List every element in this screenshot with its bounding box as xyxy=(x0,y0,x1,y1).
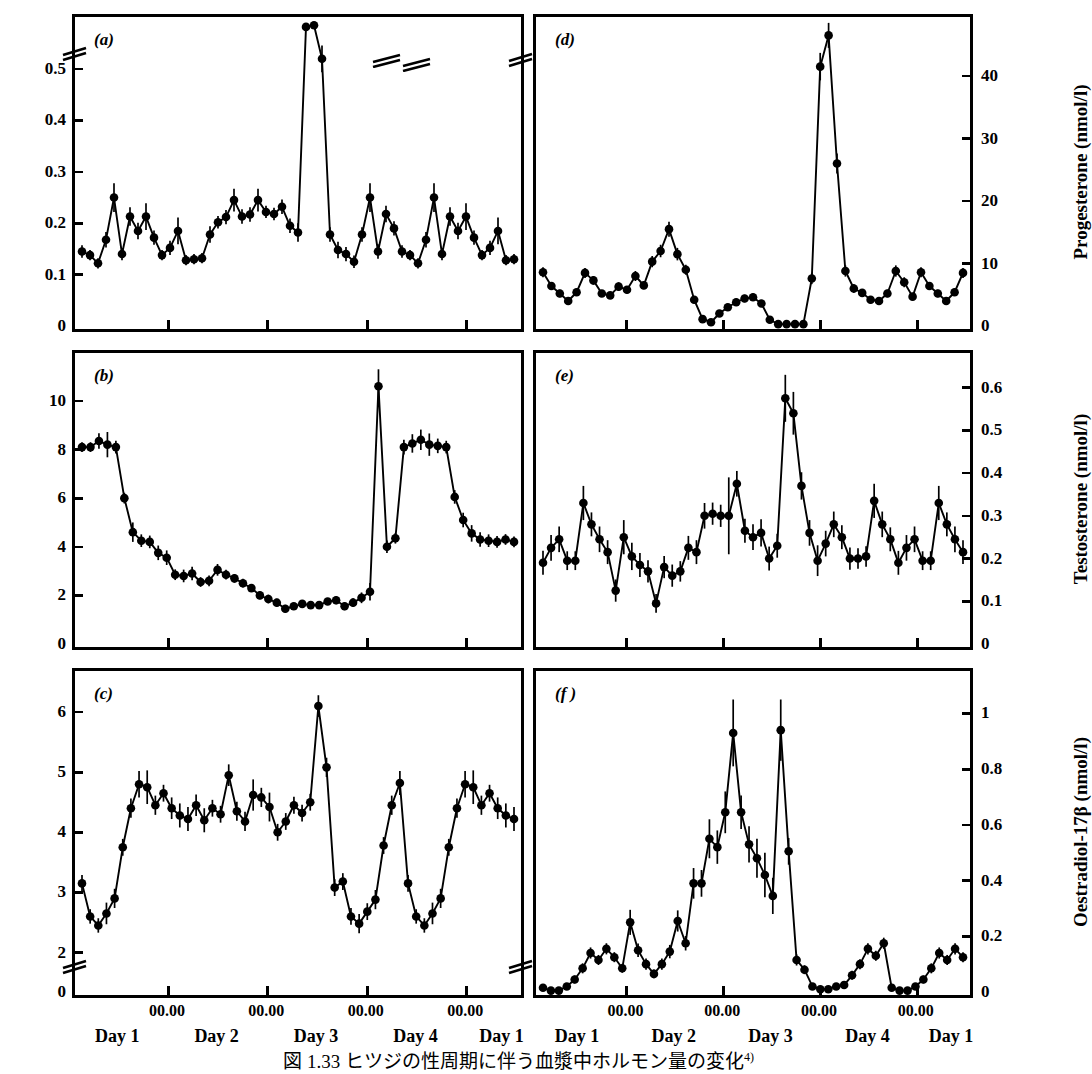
panel-f-axis-break xyxy=(508,955,534,975)
panel-b-letter: (b) xyxy=(94,366,114,386)
panel-a-data-points xyxy=(78,21,519,268)
panel-b-y-tick-label: 8 xyxy=(6,440,66,460)
panel-c-line xyxy=(82,706,514,925)
panel-f-tick-mark xyxy=(962,768,973,771)
panel-a-surge-break xyxy=(402,54,432,72)
panel-c-y-tick-label: 0 xyxy=(6,982,66,1002)
panel-e-y-tick-label: 0.4 xyxy=(981,463,1041,483)
panel-c-x-tick-mark xyxy=(465,986,468,998)
panel-f-y-tick-label: 1 xyxy=(981,703,1041,723)
panel-d-plot xyxy=(533,14,973,332)
panel-f-tick-mark xyxy=(962,879,973,882)
panel-e-line xyxy=(543,398,963,603)
panel-e: (e)00.10.20.30.40.50.6Testosterone (nmol… xyxy=(533,350,973,650)
x-tick-label: 00.00 xyxy=(248,1002,284,1020)
panel-d-x-tick-mark xyxy=(625,320,628,332)
panel-e-y-tick-label: 0.5 xyxy=(981,420,1041,440)
x-tick-label: 00.00 xyxy=(607,1002,643,1020)
panel-d: (d)010203040Progesterone (nmol/l) xyxy=(533,14,973,332)
panel-f-x-tick-mark xyxy=(625,986,628,998)
panel-d-y-tick-label: 0 xyxy=(981,316,1041,336)
panel-b-x-tick-mark xyxy=(465,638,468,650)
panel-a-axis-break xyxy=(62,42,88,62)
panel-e-tick-mark xyxy=(962,429,973,432)
panel-c-letter: (c) xyxy=(94,684,113,704)
panel-f-y-tick-label: 0.6 xyxy=(981,815,1041,835)
panel-d-tick-mark xyxy=(962,262,973,265)
panel-b-plot xyxy=(72,350,524,650)
panel-d-letter: (d) xyxy=(555,30,575,50)
panel-f-plot xyxy=(533,668,973,998)
panel-e-x-tick-mark xyxy=(819,638,822,650)
x-day-label: Day 3 xyxy=(294,1026,339,1047)
panel-c-tick-mark xyxy=(72,891,83,894)
panel-c-y-tick-label: 2 xyxy=(6,943,66,963)
caption-text: 図 1.33 ヒツジの性周期に伴う血漿中ホルモン量の変化 xyxy=(283,1051,744,1072)
panel-e-error-bars xyxy=(543,375,963,613)
panel-b-tick-mark xyxy=(72,594,83,597)
panel-d-y-tick-label: 30 xyxy=(981,129,1041,149)
panel-c-data-points xyxy=(78,702,519,930)
panel-c-tick-mark xyxy=(72,771,83,774)
panel-d-y-tick-label: 40 xyxy=(981,66,1041,86)
panel-a-tick-mark xyxy=(72,222,83,225)
panel-e-tick-mark xyxy=(962,386,973,389)
panel-e-axis-title: Testosterone (nmol/l) xyxy=(1070,379,1092,619)
x-day-label: Day 4 xyxy=(845,1026,890,1047)
panel-d-x-tick-mark xyxy=(819,320,822,332)
panel-c-y-tick-label: 6 xyxy=(6,702,66,722)
panel-a-y-tick-label: 0.2 xyxy=(6,213,66,233)
panel-d-line xyxy=(543,35,963,324)
panel-a-tick-mark xyxy=(72,273,83,276)
panel-d-x-tick-mark xyxy=(916,320,919,332)
panel-a-y-tick-label: 0 xyxy=(6,316,66,336)
panel-d-tick-mark xyxy=(962,200,973,203)
x-tick-label: 00.00 xyxy=(447,1002,483,1020)
x-day-label: Day 2 xyxy=(194,1026,239,1047)
panel-e-y-tick-label: 0.2 xyxy=(981,549,1041,569)
panel-d-axis-title: Progesterone (nmol/l) xyxy=(1070,52,1092,292)
panel-b: (b)0246810FSH (µg/l) xyxy=(72,350,524,650)
panel-b-y-tick-label: 0 xyxy=(6,634,66,654)
panel-d-tick-mark xyxy=(962,75,973,78)
panel-e-plot xyxy=(533,350,973,650)
panel-e-data-points xyxy=(539,394,968,608)
panel-f-letter: (f ) xyxy=(555,684,576,704)
panel-b-data-points xyxy=(78,382,519,613)
panel-c-tick-mark xyxy=(72,951,83,954)
panel-c-y-tick-label: 4 xyxy=(6,822,66,842)
panel-b-line xyxy=(82,386,514,608)
panel-b-y-tick-label: 6 xyxy=(6,488,66,508)
x-day-label: Day 4 xyxy=(393,1026,438,1047)
panel-d-data-points xyxy=(539,31,968,328)
panel-e-tick-mark xyxy=(962,557,973,560)
panel-c-x-tick-mark xyxy=(167,986,170,998)
panel-e-x-tick-mark xyxy=(722,638,725,650)
panel-e-tick-mark xyxy=(962,472,973,475)
panel-a-y-tick-label: 0.5 xyxy=(6,59,66,79)
panel-e-tick-mark xyxy=(962,600,973,603)
panel-c: (c)023456Inhibin (µg/l) xyxy=(72,668,524,998)
panel-d-y-tick-label: 20 xyxy=(981,191,1041,211)
panel-a-x-tick-mark xyxy=(465,320,468,332)
panel-a: (a)00.10.20.30.40.5LH (µg/l) xyxy=(72,14,524,332)
panel-b-tick-mark xyxy=(72,546,83,549)
panel-a-letter: (a) xyxy=(94,30,114,50)
panel-b-tick-mark xyxy=(72,400,83,403)
panel-b-tick-mark xyxy=(72,497,83,500)
panel-e-y-tick-label: 0.6 xyxy=(981,378,1041,398)
panel-f: (f )00.20.40.60.81Oestradiol-17β (nmol/l… xyxy=(533,668,973,998)
x-day-label: Day 3 xyxy=(748,1026,793,1047)
panel-c-y-tick-label: 5 xyxy=(6,762,66,782)
panel-e-tick-mark xyxy=(962,515,973,518)
panel-c-tick-mark xyxy=(72,831,83,834)
panel-f-tick-mark xyxy=(962,935,973,938)
panel-f-x-tick-mark xyxy=(722,986,725,998)
x-tick-label: 00.00 xyxy=(704,1002,740,1020)
panel-f-tick-mark xyxy=(962,712,973,715)
panel-e-x-tick-mark xyxy=(916,638,919,650)
panel-a-x-tick-mark xyxy=(366,320,369,332)
panel-a-plot xyxy=(72,14,524,332)
panel-f-axis-title: Oestradiol-17β (nmol/l) xyxy=(1070,712,1092,952)
panel-d-y-tick-label: 10 xyxy=(981,254,1041,274)
